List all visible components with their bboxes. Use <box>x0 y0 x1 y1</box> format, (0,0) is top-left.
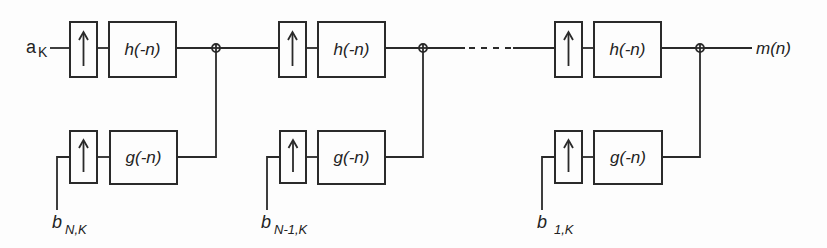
filter-bank-diagram: a K h(-n) g(-n) b N,K <box>0 0 827 248</box>
stage-2: h(-n) g(-n) b N-1,K <box>261 22 465 237</box>
summing-node-icon <box>696 44 704 52</box>
input-b-main: b <box>52 212 62 232</box>
upsample-arrow-icon <box>79 140 88 172</box>
lower-input-wire <box>542 157 555 210</box>
upsample-arrow-icon <box>289 140 298 172</box>
summing-node-icon <box>419 44 427 52</box>
wire <box>177 52 216 157</box>
input-b-subscript: N,K <box>65 222 88 237</box>
output-label: m(n) <box>756 39 791 58</box>
stage-1: h(-n) g(-n) b N,K <box>52 22 280 237</box>
upsample-arrow-icon <box>564 32 573 66</box>
wire <box>662 52 700 157</box>
input-a-k-label: a K <box>26 37 48 60</box>
input-a-subscript: K <box>38 44 48 60</box>
filter-label-g: g(-n) <box>334 148 370 167</box>
filter-label-h: h(-n) <box>334 40 370 59</box>
lower-input-wire <box>57 157 70 210</box>
input-b-main: b <box>261 212 271 232</box>
filter-label-h: h(-n) <box>610 40 646 59</box>
input-b-subscript: N-1,K <box>274 222 309 237</box>
filter-label-g: g(-n) <box>610 148 646 167</box>
input-b-main: b <box>537 212 547 232</box>
input-a-main: a <box>26 37 37 57</box>
upsample-arrow-icon <box>288 32 297 66</box>
summing-node-icon <box>212 44 220 52</box>
upsample-arrow-icon <box>79 32 88 66</box>
upsample-arrow-icon <box>564 140 573 172</box>
input-b-subscript: 1,K <box>554 222 575 237</box>
lower-input-wire <box>267 157 280 210</box>
stage-3: h(-n) g(-n) b 1,K <box>537 22 752 237</box>
filter-label-g: g(-n) <box>126 148 162 167</box>
wire <box>385 52 423 157</box>
filter-label-h: h(-n) <box>125 40 161 59</box>
